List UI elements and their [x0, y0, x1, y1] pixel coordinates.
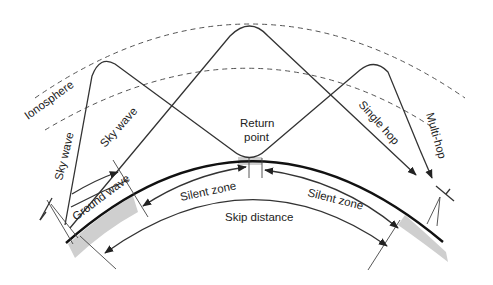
ionosphere-upper-boundary — [35, 24, 465, 98]
sky-wave-left-label: Sky wave — [52, 131, 76, 182]
single-hop-label: Single hop — [357, 98, 402, 146]
skip-distance-label: Skip distance — [225, 211, 293, 223]
propagation-diagram: Ionosphere Sky wave Sky wave Ground wave… — [0, 0, 493, 285]
return-point-label-line1: Return — [240, 117, 275, 129]
tx-tick — [80, 236, 116, 269]
sky-wave-mid-label: Sky wave — [98, 105, 140, 150]
skip-distance-arrow — [105, 200, 387, 253]
ionosphere-label: Ionosphere — [22, 78, 76, 122]
rx-tick — [368, 220, 400, 270]
multi-hop-arrow — [420, 150, 432, 178]
return-point-label-line2: point — [244, 131, 270, 143]
ground-shade-left — [68, 196, 138, 258]
multi-hop-label: Multi-hop — [424, 111, 449, 160]
receiver-antenna — [427, 186, 454, 226]
